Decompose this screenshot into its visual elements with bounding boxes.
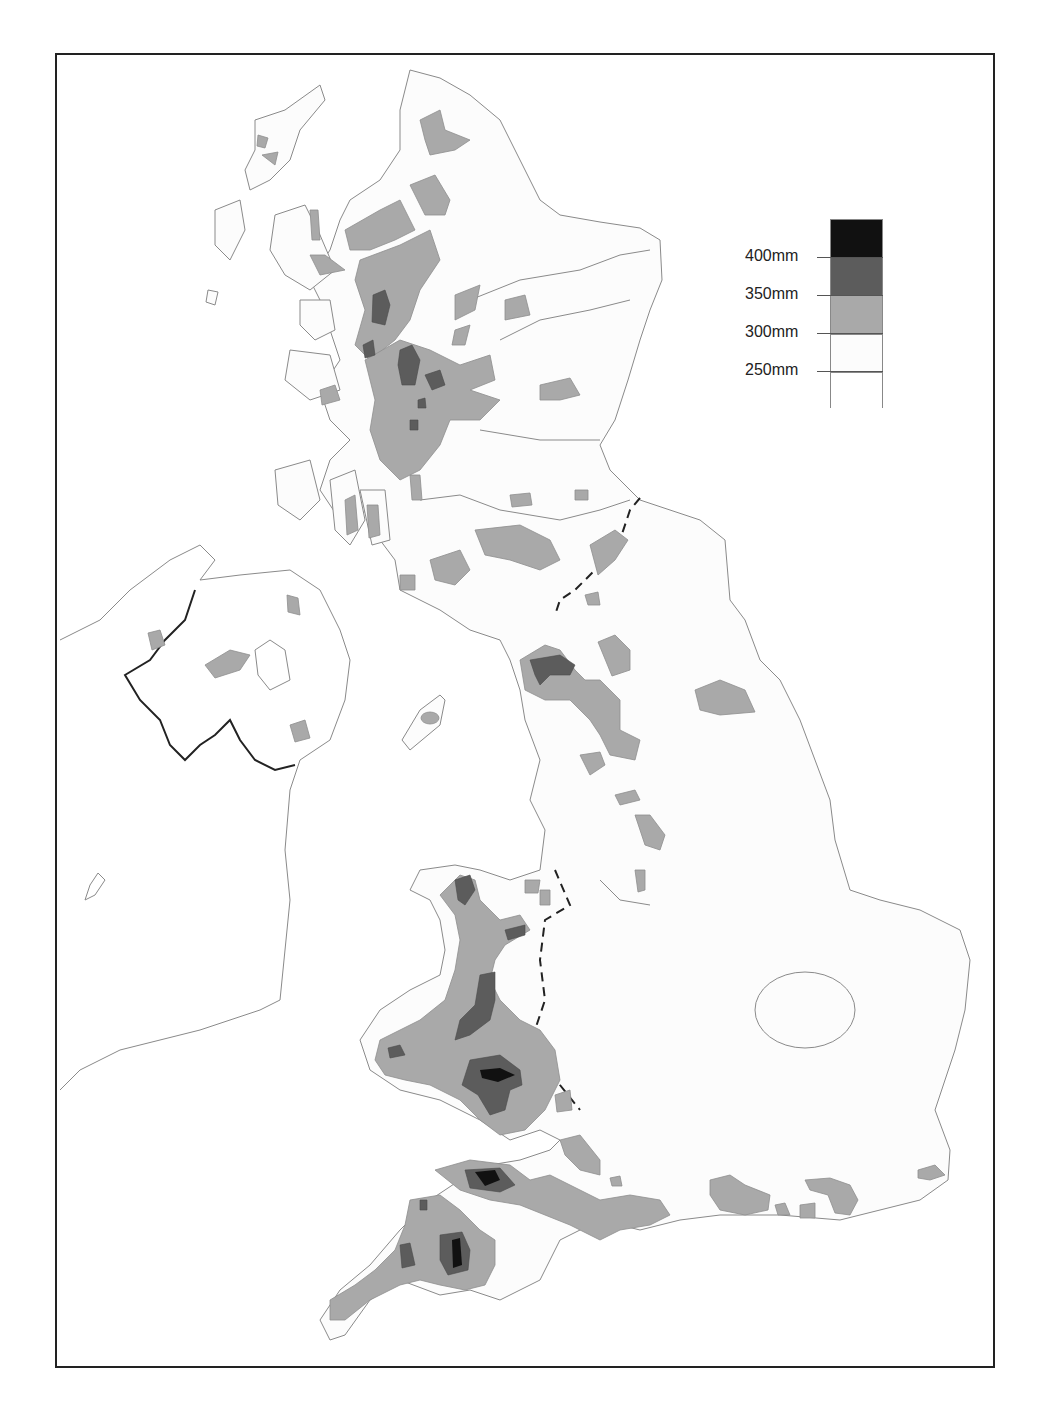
legend-swatch-250-300: [831, 334, 882, 373]
legend-label-400: 400mm: [745, 248, 798, 264]
legend-label-250: 250mm: [745, 362, 798, 378]
legend-label-300: 300mm: [745, 324, 798, 340]
rainfall-map: [0, 0, 1047, 1427]
legend-label-350: 350mm: [745, 286, 798, 302]
legend-swatch-below-250: [831, 372, 882, 409]
legend: 400mm 350mm 300mm 250mm: [740, 219, 890, 411]
legend-swatch-above-400: [831, 220, 882, 258]
legend-color-bar: [830, 219, 883, 408]
ireland-landmass: [60, 545, 350, 1090]
legend-swatch-350-400: [831, 258, 882, 296]
legend-tick-350: [817, 295, 883, 296]
legend-tick-400: [817, 257, 883, 258]
legend-tick-250: [817, 371, 883, 372]
legend-tick-300: [817, 333, 883, 334]
legend-swatch-300-350: [831, 296, 882, 334]
